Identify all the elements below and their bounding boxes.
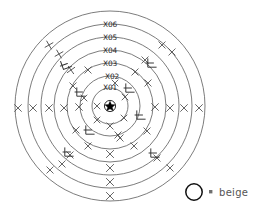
center-star-icon: [105, 101, 115, 111]
legend-circle-swatch-icon: [186, 184, 202, 200]
ring-diagram-svg: X06 X05 X04 X03 X02 X01 beige: [0, 0, 265, 216]
legend-label: beige: [219, 187, 248, 198]
x-mark: [167, 105, 174, 112]
x-mark: [132, 69, 138, 75]
ring-label-x01: X01: [103, 83, 117, 92]
x-mark: [76, 104, 83, 111]
legend: beige: [186, 184, 248, 200]
ring-label-x04: X04: [103, 46, 117, 55]
center-marker: [104, 100, 115, 111]
x-mark: [94, 103, 100, 109]
x-mark: [61, 105, 68, 112]
x-mark: [167, 165, 173, 171]
x-mark: [46, 105, 53, 112]
x-mark: [85, 143, 91, 149]
x-mark: [106, 164, 113, 171]
x-mark: [169, 49, 175, 55]
x-mark: [30, 105, 37, 112]
x-mark: [15, 105, 22, 112]
x-mark: [106, 150, 113, 157]
x-mark: [85, 67, 91, 73]
ring-diagram-canvas: X06 X05 X04 X03 X02 X01 beige: [0, 0, 265, 216]
angle-mark: [124, 84, 134, 92]
angle-mark: [146, 59, 156, 67]
x-mark: [106, 192, 113, 199]
x-mark: [59, 161, 65, 167]
x-mark: [115, 132, 121, 138]
x-mark: [106, 178, 113, 185]
x-mark: [122, 94, 128, 100]
legend-equals-glyph: [209, 190, 212, 193]
ring-label-x03: X03: [103, 59, 117, 68]
x-mark: [121, 115, 127, 121]
x-mark: [196, 105, 203, 112]
x-mark: [131, 143, 137, 149]
x-mark: [47, 167, 53, 173]
x-mark: [67, 152, 73, 158]
x-mark: [181, 105, 188, 112]
angle-mark: [135, 111, 145, 119]
ring-label-x05: X05: [103, 33, 117, 42]
ring-label-x06: X06: [103, 20, 117, 29]
angle-mark: [63, 148, 73, 156]
